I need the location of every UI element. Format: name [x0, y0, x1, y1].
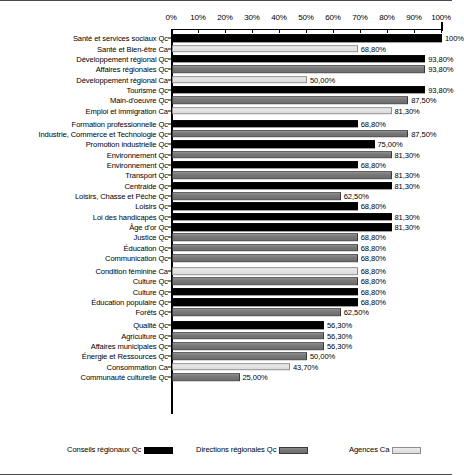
category-label: Communauté culturelle Qc [81, 372, 169, 381]
bar[interactable] [172, 321, 324, 329]
bar-value-label: 81,30% [395, 222, 420, 231]
bar-row: Culture Qc68,80% [0, 286, 452, 296]
bar[interactable] [172, 352, 307, 360]
bar-row: Forêts Qc62,50% [0, 307, 452, 317]
bar-value-label: 68,80% [361, 202, 386, 211]
category-label: Consommation Ca [107, 362, 168, 371]
legend-item[interactable]: Directions régionales Qc [196, 445, 308, 455]
bar[interactable] [172, 171, 392, 179]
category-label: Loisirs Qc [135, 202, 168, 211]
bar-row: Environnement Qc68,80% [0, 160, 452, 170]
bar-value-label: 81,30% [395, 181, 420, 190]
category-label: Qualité Qc [133, 321, 168, 330]
bar[interactable] [172, 161, 358, 169]
bar[interactable] [172, 140, 375, 148]
bar-row: Énergie et Ressources Qc50,00% [0, 351, 452, 361]
bar[interactable] [172, 182, 392, 190]
bar[interactable] [172, 342, 324, 350]
bar-value-label: 50,00% [310, 75, 335, 84]
bar-row: Éducation populaire Qc68,80% [0, 297, 452, 307]
bar-row: Condition féminine Ca68,80% [0, 266, 452, 276]
bar-value-label: 75,00% [378, 140, 403, 149]
bar[interactable] [172, 288, 358, 296]
bar[interactable] [172, 309, 341, 317]
category-label: Transport Qc [125, 171, 168, 180]
bar-value-label: 87,50% [411, 96, 436, 105]
bar-row: Santé et Bien-être Ca68,80% [0, 43, 452, 53]
bar-value-label: 56,30% [327, 341, 352, 350]
category-label: Loi des handicapés Qc [93, 212, 168, 221]
x-axis-tick-label: 10% [190, 13, 205, 23]
x-axis-tick-label: 50% [298, 13, 313, 23]
x-axis-tick-label: 30% [244, 13, 259, 23]
bar-value-label: 62,50% [344, 308, 369, 317]
bar[interactable] [172, 107, 392, 115]
bar[interactable] [172, 277, 358, 285]
plot-area: 0%10%20%30%40%50%60%70%80%90%100% Santé … [0, 13, 452, 433]
category-label: Éducation populaire Qc [91, 297, 168, 306]
bar[interactable] [172, 363, 290, 371]
category-label: Promotion industrielle Qc [86, 140, 168, 149]
legend-item[interactable]: Conseils régionaux Qc [67, 445, 173, 455]
bar[interactable] [172, 267, 358, 275]
x-axis-tick-label: 60% [325, 13, 340, 23]
bar-row: Affaires régionales Qc93,80% [0, 64, 452, 74]
legend-item[interactable]: Agences Ca [349, 445, 421, 455]
bar[interactable] [172, 151, 392, 159]
bar[interactable] [172, 45, 358, 53]
bar[interactable] [172, 234, 358, 242]
bar-value-label: 68,80% [361, 266, 386, 275]
bar[interactable] [172, 213, 392, 221]
legend-swatch [144, 447, 173, 454]
bar[interactable] [172, 65, 425, 73]
bar-value-label: 43,70% [293, 362, 318, 371]
x-axis-tick-label: 0% [165, 13, 176, 23]
x-axis-tick-mark [198, 30, 199, 33]
category-label: Environnement Qc [107, 150, 168, 159]
bar[interactable] [172, 244, 358, 252]
bar-value-label: 62,50% [344, 191, 369, 200]
bar[interactable] [172, 76, 307, 84]
bar-value-label: 93,80% [428, 65, 453, 74]
category-label: Santé et services sociaux Qc [73, 34, 168, 43]
bar[interactable] [172, 55, 425, 63]
legend-label: Directions régionales Qc [196, 445, 276, 455]
bar-row: Loisirs, Chasse et Pêche Qc62,50% [0, 191, 452, 201]
x-axis-tick-label: 70% [352, 13, 367, 23]
x-axis-tick-mark [360, 30, 361, 33]
category-label: Culture Qc [133, 287, 168, 296]
bar[interactable] [172, 130, 408, 138]
bar-row: Âge d'or Qc81,30% [0, 222, 452, 232]
x-axis-tick-mark [252, 30, 253, 33]
bar[interactable] [172, 120, 358, 128]
bar-value-label: 50,00% [310, 352, 335, 361]
bar[interactable] [172, 192, 341, 200]
category-label: Environnement Qc [107, 160, 168, 169]
bar[interactable] [172, 86, 425, 94]
bar-value-label: 25,00% [243, 372, 268, 381]
category-label: Centraide Qc [124, 181, 168, 190]
bar[interactable] [172, 298, 358, 306]
bar-row: Environnement Qc81,30% [0, 149, 452, 159]
category-label: Loisirs, Chasse et Pêche Qc [75, 191, 168, 200]
bar-rows: Santé et services sociaux Qc100%Santé et… [0, 33, 452, 382]
bar[interactable] [172, 332, 324, 340]
bar-row: Développement régional Qc93,80% [0, 54, 452, 64]
bar-row: Transport Qc81,30% [0, 170, 452, 180]
bar[interactable] [172, 202, 358, 210]
x-axis-tick-mark [333, 30, 334, 33]
legend-label: Conseils régionaux Qc [67, 445, 141, 455]
bar[interactable] [172, 254, 358, 262]
category-label: Emploi et immigration Ca [86, 106, 168, 115]
bar-row: Loisirs Qc68,80% [0, 201, 452, 211]
bar[interactable] [172, 96, 408, 104]
bar-row: Affaires municipales Qc56,30% [0, 341, 452, 351]
bar[interactable] [172, 223, 392, 231]
bar-row: Formation professionnelle Qc68,80% [0, 118, 452, 128]
bar[interactable] [172, 373, 240, 381]
bar-row: Tourisme Qc93,80% [0, 85, 452, 95]
bar-row: Développement régional Ca50,00% [0, 74, 452, 84]
bar[interactable] [172, 34, 442, 42]
category-label: Communication Qc [105, 253, 168, 262]
bar-value-label: 56,30% [327, 321, 352, 330]
